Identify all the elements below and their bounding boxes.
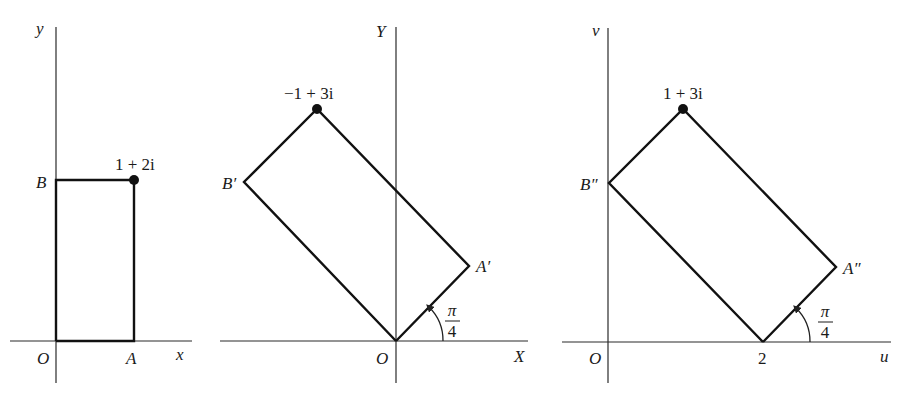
y-axis-label: Y — [376, 22, 387, 41]
x-axis-label: X — [513, 347, 525, 366]
vertex-a-label: A′ — [475, 257, 490, 276]
vertex-a-label: A — [125, 349, 137, 368]
vertex-b-label: B′ — [222, 174, 236, 193]
panel-rotated-plane: Y X O A′ B′ −1 + 3i π 4 — [220, 22, 528, 383]
x-axis-label: x — [175, 345, 184, 364]
angle-arc — [429, 307, 443, 341]
figure: y x O A B 1 + 2i Y X O A′ B′ −1 + 3i π 4… — [0, 0, 901, 394]
origin-label: O — [589, 349, 601, 368]
point-label: −1 + 3i — [284, 84, 334, 103]
tick-label-2: 2 — [758, 349, 767, 368]
vertex-a-label: A″ — [842, 259, 861, 278]
point-label: 1 + 3i — [663, 84, 703, 103]
angle-label: π 4 — [818, 302, 833, 342]
point-marker — [129, 175, 139, 185]
rectangle-translated — [609, 109, 836, 342]
y-axis-label: y — [34, 19, 44, 38]
point-marker — [678, 104, 688, 114]
panel-z-plane: y x O A B 1 + 2i — [10, 19, 192, 383]
angle-label: π 4 — [445, 301, 460, 341]
v-axis-label: v — [592, 21, 600, 40]
point-label: 1 + 2i — [115, 155, 155, 174]
u-axis-label: u — [880, 347, 889, 366]
panel-w-plane: v u O 2 A″ B″ 1 + 3i π 4 — [562, 21, 891, 383]
angle-numerator: π — [821, 302, 830, 321]
vertex-b-label: B — [36, 173, 47, 192]
angle-denominator: 4 — [448, 322, 457, 341]
point-marker — [312, 104, 322, 114]
rectangle-rotated — [244, 109, 469, 341]
origin-label: O — [376, 349, 388, 368]
vertex-b-label: B″ — [580, 175, 598, 194]
origin-label: O — [37, 349, 49, 368]
rectangle-oab — [56, 180, 134, 341]
angle-arc — [796, 308, 810, 342]
angle-denominator: 4 — [821, 323, 830, 342]
angle-numerator: π — [448, 301, 457, 320]
